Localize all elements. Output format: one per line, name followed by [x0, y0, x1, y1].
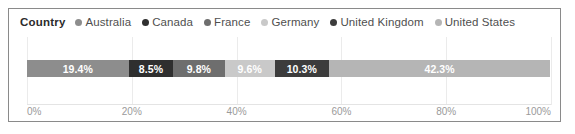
- chart-legend: Country Australia Canada France Germany …: [9, 9, 560, 35]
- legend-item-united-states[interactable]: United States: [435, 16, 515, 28]
- legend-swatch-australia-icon: [75, 19, 82, 26]
- bar-segment-label-australia: 19.4%: [63, 63, 93, 75]
- legend-swatch-united-kingdom-icon: [330, 19, 337, 26]
- legend-item-united-kingdom[interactable]: United Kingdom: [330, 16, 423, 28]
- legend-item-australia[interactable]: Australia: [75, 16, 131, 28]
- chart-widget-frame: Country Australia Canada France Germany …: [8, 8, 561, 122]
- legend-title: Country: [20, 16, 65, 28]
- bar-segment-canada[interactable]: 8.5%: [129, 60, 174, 77]
- bar-segment-united-kingdom[interactable]: 10.3%: [275, 60, 329, 77]
- legend-swatch-germany-icon: [261, 19, 268, 26]
- legend-label-france: France: [214, 16, 250, 28]
- chart-x-axis: 0%20%40%60%80%100%: [27, 106, 551, 122]
- x-tick-label-100: 100%: [525, 106, 551, 117]
- chart-axis-baseline: [27, 104, 551, 105]
- legend-swatch-france-icon: [204, 19, 211, 26]
- legend-label-united-kingdom: United Kingdom: [340, 16, 423, 28]
- stacked-bar: 19.4%8.5%9.8%9.6%10.3%42.3%: [27, 60, 551, 77]
- bar-segment-australia[interactable]: 19.4%: [27, 60, 129, 77]
- bar-segment-label-germany: 9.6%: [237, 63, 261, 75]
- bar-segment-label-canada: 8.5%: [139, 63, 163, 75]
- x-tick-label-80: 80%: [436, 106, 456, 117]
- legend-item-germany[interactable]: Germany: [261, 16, 319, 28]
- legend-label-united-states: United States: [445, 16, 515, 28]
- bar-segment-united-states[interactable]: 42.3%: [329, 60, 551, 77]
- bar-segment-label-united-states: 42.3%: [424, 63, 454, 75]
- legend-label-canada: Canada: [152, 16, 193, 28]
- legend-swatch-canada-icon: [142, 19, 149, 26]
- bar-segment-germany[interactable]: 9.6%: [225, 60, 275, 77]
- chart-plot-area: 19.4%8.5%9.8%9.6%10.3%42.3%: [27, 37, 551, 105]
- x-tick-label-20: 20%: [122, 106, 142, 117]
- gridline-100: [551, 37, 552, 105]
- legend-label-australia: Australia: [85, 16, 131, 28]
- legend-label-germany: Germany: [271, 16, 319, 28]
- legend-swatch-united-states-icon: [435, 19, 442, 26]
- bar-segment-label-united-kingdom: 10.3%: [287, 63, 317, 75]
- x-tick-label-0: 0%: [27, 106, 41, 117]
- x-tick-label-60: 60%: [331, 106, 351, 117]
- bar-segment-label-france: 9.8%: [187, 63, 211, 75]
- legend-item-canada[interactable]: Canada: [142, 16, 193, 28]
- legend-item-france[interactable]: France: [204, 16, 250, 28]
- bar-segment-france[interactable]: 9.8%: [173, 60, 224, 77]
- x-tick-label-40: 40%: [227, 106, 247, 117]
